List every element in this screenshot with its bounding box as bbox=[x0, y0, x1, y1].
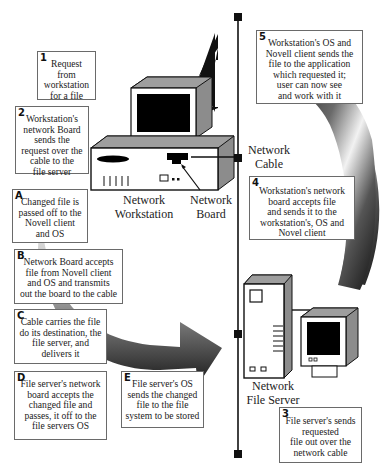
network-cable-label: Network Cable bbox=[244, 143, 294, 171]
cable-terminator-top bbox=[234, 13, 242, 21]
cable-connector-server bbox=[234, 330, 242, 338]
step-b-box: B Network Board accepts file from Novell… bbox=[14, 249, 123, 304]
network-workstation-label: Network Workstation bbox=[112, 193, 176, 221]
step-e-text: File server's OS sends the changed file … bbox=[125, 373, 200, 421]
step-d-tag: D bbox=[17, 372, 25, 383]
step-b-text: Network Board accepts file from Novell c… bbox=[18, 251, 119, 299]
step-c-text: Cable carries the file do its destinatio… bbox=[18, 311, 103, 359]
step-d-text: File server's network board accepts the … bbox=[18, 373, 103, 432]
network-file-server-label: Network File Server bbox=[240, 379, 306, 407]
step-1-text: Request from workstation for a file bbox=[41, 53, 92, 101]
step-3-tag: 3 bbox=[282, 408, 289, 419]
step-2-tag: 2 bbox=[18, 107, 25, 118]
step-4-box: 4 Workstation's network board accepts fi… bbox=[249, 176, 355, 240]
step-e-tag: E bbox=[124, 372, 131, 383]
step-c-tag: C bbox=[17, 310, 24, 321]
step-d-box: D File server's network board accepts th… bbox=[14, 371, 107, 440]
cable-connector-workstation bbox=[234, 154, 242, 162]
step-a-box: A Changed file is passed off to the Nove… bbox=[12, 189, 88, 243]
step-a-tag: A bbox=[15, 190, 23, 201]
network-board-label: Network Board bbox=[186, 193, 236, 221]
step-3-box: 3 File server's sends requested file out… bbox=[279, 407, 362, 463]
step-e-box: E File server's OS sends the changed fil… bbox=[121, 371, 204, 428]
step-1-tag: 1 bbox=[40, 52, 47, 63]
step-b-tag: B bbox=[17, 250, 25, 261]
step-a-text: Changed file is passed off to the Novell… bbox=[16, 191, 84, 239]
network-board bbox=[167, 153, 188, 160]
step-5-box: 5 Workstation's OS and Novell client sen… bbox=[256, 30, 363, 104]
step-3-text: File server's sends requested file out o… bbox=[283, 409, 358, 458]
step-2-box: 2 Workstation's network Board sends the … bbox=[15, 106, 89, 174]
step-2-text: Workstation's network Board sends the re… bbox=[19, 108, 85, 178]
step-5-text: Workstation's OS and Novell client sends… bbox=[260, 32, 359, 102]
step-1-box: 1 Request from workstation for a file bbox=[37, 51, 96, 100]
step-5-tag: 5 bbox=[259, 31, 266, 42]
step-4-text: Workstation's network board accepts file… bbox=[253, 178, 351, 239]
step-4-tag: 4 bbox=[252, 177, 259, 188]
step-c-box: C Cable carries the file do its destinat… bbox=[14, 309, 107, 364]
cable-terminator-bottom bbox=[234, 450, 242, 458]
file-server-computer bbox=[244, 275, 358, 378]
